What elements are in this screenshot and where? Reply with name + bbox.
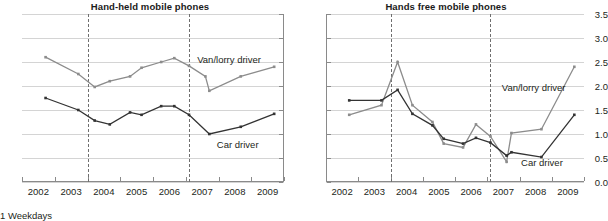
- x-axis-label: 2008: [224, 186, 245, 197]
- data-point: [380, 99, 383, 102]
- data-point: [273, 113, 276, 116]
- y-axis-label: 0.0: [595, 177, 608, 188]
- data-point: [411, 113, 414, 116]
- x-axis-label: 2003: [61, 186, 82, 197]
- y-axis-label: 3.0: [595, 33, 608, 44]
- y-axis-labels: 0.00.51.01.52.02.53.03.5: [582, 14, 608, 182]
- data-point: [140, 114, 143, 117]
- data-point: [475, 137, 478, 140]
- data-point: [431, 121, 434, 124]
- x-axis-label: 2007: [192, 186, 213, 197]
- series-label: Van/lorry driver: [502, 82, 566, 93]
- series-label: Car driver: [217, 139, 259, 150]
- y-axis-tick: [279, 182, 283, 183]
- x-axis-label: 2002: [28, 186, 49, 197]
- data-point: [93, 86, 96, 89]
- data-point: [462, 146, 465, 149]
- x-axis-tick: [584, 177, 585, 181]
- data-point: [573, 66, 576, 69]
- x-axis-label: 2008: [525, 186, 546, 197]
- x-axis-label: 2007: [493, 186, 514, 197]
- data-point: [489, 135, 492, 138]
- footnote: 1 Weekdays: [0, 210, 52, 221]
- data-point: [160, 105, 163, 108]
- y-axis-label: 2.5: [595, 57, 608, 68]
- data-point: [239, 75, 242, 78]
- data-point: [462, 142, 465, 145]
- data-point: [140, 66, 143, 69]
- data-point: [129, 111, 132, 114]
- y-axis-label: 1.5: [595, 105, 608, 116]
- data-point: [188, 65, 191, 68]
- y-axis-label: 1.0: [595, 129, 608, 140]
- series-layer: [22, 14, 284, 182]
- x-axis-label: 2006: [461, 186, 482, 197]
- x-axis-label: 2004: [93, 186, 114, 197]
- chart-panel-hand-held: Hand-held mobile phones Van/lorry driver…: [0, 0, 300, 221]
- data-point: [442, 142, 445, 145]
- gridline: [326, 182, 584, 183]
- y-axis-label: 0.5: [595, 153, 608, 164]
- x-axis-label: 2005: [126, 186, 147, 197]
- x-axis-tick: [284, 177, 285, 181]
- data-point: [188, 114, 191, 117]
- x-axis-labels-left: 20022003200420052006200720082009: [22, 186, 284, 200]
- chart-panel-hands-free: Hands free mobile phones 0.00.51.01.52.0…: [296, 0, 596, 221]
- data-point: [160, 61, 163, 64]
- data-point: [510, 132, 513, 135]
- data-point: [431, 124, 434, 127]
- data-point: [44, 97, 47, 100]
- data-point: [380, 104, 383, 107]
- x-axis-label: 2006: [159, 186, 180, 197]
- x-axis-label: 2009: [557, 186, 578, 197]
- data-point: [204, 75, 207, 78]
- data-point: [77, 109, 80, 112]
- plot-area-right: Van/lorry driverCar driver: [326, 14, 584, 182]
- data-point: [540, 128, 543, 131]
- data-point: [505, 154, 508, 157]
- data-point: [348, 99, 351, 102]
- x-axis-label: 2004: [396, 186, 417, 197]
- x-axis-labels-right: 20022003200420052006200720082009: [326, 186, 584, 200]
- data-point: [44, 56, 47, 59]
- data-point: [348, 114, 351, 117]
- data-point: [239, 126, 242, 129]
- data-point: [77, 73, 80, 76]
- y-axis-tick: [327, 182, 331, 183]
- data-point: [108, 123, 111, 126]
- data-point: [396, 89, 399, 92]
- data-point: [173, 57, 176, 60]
- data-point: [411, 104, 414, 107]
- data-point: [273, 66, 276, 69]
- y-axis-label: 3.5: [595, 9, 608, 20]
- data-point: [129, 75, 132, 78]
- series-line-car-driver: [46, 98, 275, 134]
- x-axis-label: 2003: [364, 186, 385, 197]
- data-point: [396, 61, 399, 64]
- x-axis-label: 2009: [257, 186, 278, 197]
- x-axis-label: 2002: [332, 186, 353, 197]
- chart-title-left: Hand-held mobile phones: [0, 1, 300, 12]
- data-point: [510, 151, 513, 154]
- x-axis-label: 2005: [428, 186, 449, 197]
- plot-area-left: Van/lorry driverCar driver: [22, 14, 284, 182]
- series-label: Van/lorry driver: [197, 54, 261, 65]
- data-point: [442, 138, 445, 141]
- series-label: Car driver: [521, 157, 563, 168]
- data-point: [505, 161, 508, 164]
- data-point: [108, 80, 111, 83]
- y-axis-label: 2.0: [595, 81, 608, 92]
- chart-title-right: Hands free mobile phones: [296, 1, 596, 12]
- data-point: [475, 123, 478, 126]
- data-point: [173, 105, 176, 108]
- data-point: [93, 119, 96, 122]
- gridline: [22, 182, 284, 183]
- data-point: [208, 90, 211, 93]
- data-point: [489, 141, 492, 144]
- data-point: [208, 133, 211, 136]
- data-point: [573, 114, 576, 117]
